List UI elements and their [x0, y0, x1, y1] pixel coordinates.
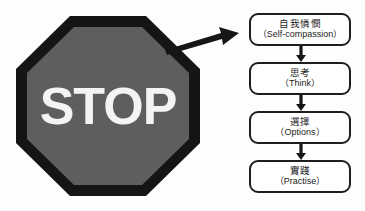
stop-sign-label: STOP [40, 77, 177, 135]
flow-step-label-cn: 實踐 [290, 166, 311, 176]
flow-step-label-en: （Self-compassion） [258, 30, 343, 40]
pointer-arrow-icon [163, 20, 241, 56]
flowchart: 自我憐憫 （Self-compassion） 思考 （Think） 選擇 （Op… [248, 13, 354, 199]
flow-connector-arrow-3 [295, 144, 307, 160]
flow-step-label-en: （Options） [275, 128, 324, 138]
flow-step-label-en: （Think） [280, 79, 320, 89]
flow-step-practise[interactable]: 實踐 （Practise） [249, 160, 351, 193]
flow-step-label-en: （Practise） [275, 177, 326, 187]
flow-step-self-compassion[interactable]: 自我憐憫 （Self-compassion） [249, 13, 351, 46]
flow-step-think[interactable]: 思考 （Think） [249, 62, 351, 95]
flow-step-options[interactable]: 選擇 （Options） [249, 111, 351, 144]
figure-canvas: STOP 自我憐憫 （Self-compassion） 思考 （Think） [0, 0, 365, 211]
flow-step-label-cn: 思考 [290, 68, 311, 78]
flow-connector-arrow-1 [295, 46, 307, 62]
flow-connector-arrow-2 [295, 95, 307, 111]
flow-step-label-cn: 選擇 [290, 117, 311, 127]
flow-step-label-cn: 自我憐憫 [279, 19, 321, 29]
